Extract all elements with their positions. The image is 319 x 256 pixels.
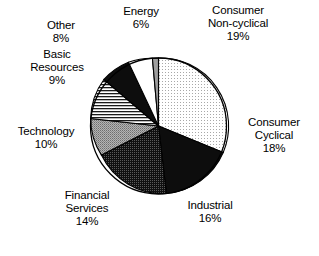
pie-label-percent: 19% (186, 30, 290, 43)
pie-label-industrial: Industrial 16% (172, 199, 248, 225)
pie-label-text-line1: Other (30, 19, 92, 32)
pie-label-basic-resources: Basic Resources 9% (18, 48, 96, 88)
pie-label-text-line1: Consumer (186, 4, 290, 17)
pie-label-text-line2: Non-cyclical (186, 17, 290, 30)
pie-label-percent: 18% (234, 142, 314, 155)
pie-label-other: Other 8% (30, 19, 92, 45)
pie-label-text-line1: Financial (48, 189, 126, 202)
pie-label-percent: 8% (30, 32, 92, 45)
pie-label-text-line1: Consumer (234, 116, 314, 129)
pie-label-text-line2: Cyclical (234, 129, 314, 142)
pie-label-text-line1: Energy (110, 5, 172, 18)
pie-label-text-line2: Services (48, 202, 126, 215)
pie-label-energy: Energy 6% (110, 5, 172, 31)
pie-label-percent: 10% (7, 138, 85, 151)
pie-label-text-line1: Technology (7, 125, 85, 138)
pie-label-percent: 6% (110, 18, 172, 31)
pie-label-consumer-cyclical: Consumer Cyclical 18% (234, 116, 314, 156)
pie-label-technology: Technology 10% (7, 125, 85, 151)
pie-chart: Consumer Non-cyclical 19% Consumer Cycli… (0, 0, 319, 256)
pie-label-text-line1: Industrial (172, 199, 248, 212)
pie-label-percent: 9% (18, 74, 96, 87)
pie-label-percent: 16% (172, 212, 248, 225)
pie-label-consumer-non-cyclical: Consumer Non-cyclical 19% (186, 4, 290, 44)
pie-label-percent: 14% (48, 215, 126, 228)
pie-label-text-line1: Basic (18, 48, 96, 61)
pie-label-financial-services: Financial Services 14% (48, 189, 126, 229)
pie-label-text-line2: Resources (18, 61, 96, 74)
